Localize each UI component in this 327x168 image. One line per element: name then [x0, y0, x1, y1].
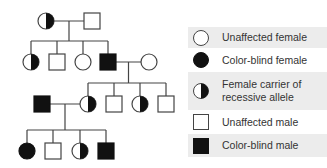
legend-label: Color-blind male: [214, 139, 298, 152]
affected-male-symbol: [98, 143, 114, 159]
affected-female-symbol: [19, 143, 35, 159]
legend-item-affected-female: Color-blind female: [188, 48, 327, 72]
legend-item-unaffected-male: Unaffected male: [188, 110, 327, 134]
carrier-half-fill: [31, 54, 39, 70]
affected-male-symbol: [100, 54, 116, 70]
unaffected-male-symbol: [158, 96, 174, 112]
legend-label: Unaffected male: [214, 116, 298, 129]
unaffected-male-symbol: [84, 13, 100, 29]
legend-label: Unaffected female: [214, 31, 307, 44]
legend-item-unaffected-female: Unaffected female: [188, 27, 327, 48]
carrier-female-icon: [188, 82, 214, 100]
unaffected-female-symbol: [75, 54, 91, 70]
legend-label: Female carrier of recessive allele: [214, 78, 318, 104]
legend-label: Color-blind female: [214, 54, 307, 67]
legend: Unaffected female Color-blind female Fem…: [188, 27, 327, 157]
unaffected-male-symbol: [106, 96, 122, 112]
affected-male-symbol: [34, 96, 50, 112]
affected-male-icon: [188, 137, 214, 155]
legend-item-affected-male: Color-blind male: [188, 134, 327, 157]
affected-female-icon: [188, 51, 214, 69]
unaffected-female-symbol: [141, 54, 157, 70]
unaffected-female-icon: [188, 29, 214, 47]
carrier-half-fill: [46, 13, 54, 29]
legend-item-carrier-female: Female carrier of recessive allele: [188, 72, 327, 110]
unaffected-male-symbol: [45, 143, 61, 159]
carrier-half-fill: [80, 143, 88, 159]
unaffected-male-icon: [188, 113, 214, 131]
carrier-half-fill: [88, 96, 96, 112]
unaffected-male-symbol: [49, 54, 65, 70]
pedigree-chart: [0, 0, 185, 168]
carrier-half-fill: [140, 96, 148, 112]
